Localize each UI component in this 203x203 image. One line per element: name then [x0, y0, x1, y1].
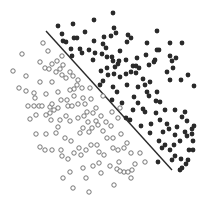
- filled-point: [165, 122, 170, 127]
- hollow-point: [61, 176, 65, 180]
- hollow-point: [81, 126, 85, 130]
- filled-point: [155, 48, 160, 53]
- hollow-point: [90, 126, 94, 130]
- hollow-point: [50, 148, 54, 152]
- hollow-point: [66, 157, 70, 161]
- hollow-point: [55, 59, 59, 63]
- filled-point: [173, 108, 178, 113]
- filled-point: [101, 79, 106, 84]
- hollow-point: [56, 125, 60, 129]
- hollow-point: [111, 136, 115, 140]
- hollow-point: [24, 89, 28, 93]
- filled-point: [114, 31, 119, 36]
- hollow-point: [84, 176, 88, 180]
- filled-point: [149, 122, 154, 127]
- filled-point: [141, 77, 146, 82]
- filled-point: [180, 115, 185, 120]
- filled-point: [172, 143, 177, 148]
- hollow-point: [129, 176, 133, 180]
- hollow-point: [24, 74, 28, 78]
- filled-point: [137, 66, 142, 71]
- hollow-point: [125, 141, 129, 145]
- hollow-point: [34, 132, 38, 136]
- hollow-point: [72, 151, 76, 155]
- hollow-point: [133, 162, 137, 166]
- filled-point: [145, 41, 150, 46]
- filled-point: [168, 78, 173, 83]
- filled-point: [110, 98, 115, 103]
- filled-point: [152, 60, 157, 65]
- filled-point: [173, 154, 178, 159]
- hollow-point: [60, 73, 64, 77]
- hollow-point: [64, 76, 68, 80]
- hollow-point: [76, 102, 80, 106]
- hollow-point: [79, 153, 83, 157]
- filled-point: [180, 41, 185, 46]
- filled-point: [125, 40, 130, 45]
- filled-point: [170, 158, 175, 163]
- filled-point: [170, 59, 175, 64]
- hollow-point: [70, 104, 74, 108]
- hollow-point: [58, 118, 62, 122]
- hollow-point: [44, 113, 48, 117]
- hollow-point: [96, 123, 100, 127]
- hollow-point: [97, 150, 101, 154]
- hollow-point: [11, 69, 15, 73]
- hollow-point: [71, 74, 75, 78]
- filled-point: [93, 51, 98, 56]
- hollow-point: [61, 63, 65, 67]
- filled-point: [136, 101, 141, 106]
- filled-point: [168, 54, 173, 59]
- hollow-point: [34, 113, 38, 117]
- filled-point: [158, 100, 163, 105]
- filled-point: [60, 32, 65, 37]
- hollow-point: [44, 92, 48, 96]
- filled-point: [112, 26, 117, 31]
- hollow-point: [58, 67, 62, 71]
- hollow-point: [89, 97, 93, 101]
- hollow-point: [54, 70, 58, 74]
- filled-point: [112, 72, 117, 77]
- hollow-point: [50, 62, 54, 66]
- filled-point: [155, 29, 160, 34]
- hollow-point: [38, 60, 42, 64]
- filled-point: [180, 166, 185, 171]
- filled-point: [128, 118, 133, 123]
- hollow-point: [138, 151, 142, 155]
- hollow-point: [81, 96, 85, 100]
- hollow-point: [129, 151, 133, 155]
- filled-point: [118, 49, 123, 54]
- filled-point: [83, 30, 88, 35]
- hollow-point: [64, 114, 68, 118]
- hollow-point: [109, 124, 113, 128]
- hollow-point: [81, 166, 85, 170]
- filled-point: [125, 83, 130, 88]
- hollow-point: [99, 114, 103, 118]
- filled-point: [87, 48, 92, 53]
- hollow-point: [85, 110, 89, 114]
- hollow-point: [60, 54, 64, 58]
- hollow-point: [41, 41, 45, 45]
- hollow-point: [119, 132, 123, 136]
- hollow-point: [43, 148, 47, 152]
- hollow-point: [91, 111, 95, 115]
- filled-point: [191, 148, 196, 153]
- filled-point: [154, 99, 159, 104]
- filled-point: [115, 90, 120, 95]
- filled-point: [129, 36, 134, 41]
- filled-point: [185, 134, 190, 139]
- filled-point: [64, 40, 69, 45]
- filled-point: [175, 125, 180, 130]
- filled-point: [148, 131, 153, 136]
- filled-point: [171, 66, 176, 71]
- hollow-point: [94, 106, 98, 110]
- filled-point: [111, 59, 116, 64]
- hollow-point: [52, 108, 56, 112]
- filled-point: [154, 111, 159, 116]
- hollow-point: [75, 83, 79, 87]
- hollow-point: [26, 104, 30, 108]
- filled-point: [100, 52, 105, 57]
- hollow-point: [130, 168, 134, 172]
- hollow-point: [87, 130, 91, 134]
- hollow-point: [117, 160, 121, 164]
